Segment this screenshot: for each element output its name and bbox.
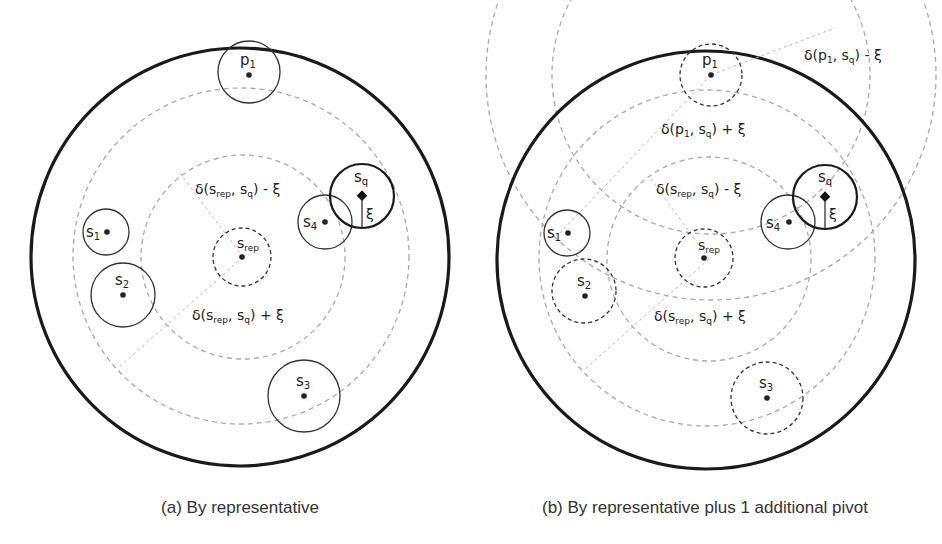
caption-panel-b: (b) By representative plus 1 additional … xyxy=(490,498,920,518)
s2-point xyxy=(120,292,126,298)
s1-point xyxy=(104,229,110,235)
label-s1: s1 xyxy=(547,224,561,243)
diagram-canvas: p1 s1 s2 s3 s4 sq ξ srep δ(srep, sq) - ξ… xyxy=(0,0,942,544)
label-s3: s3 xyxy=(759,374,773,393)
s3-point xyxy=(301,393,307,399)
srep-point xyxy=(701,255,707,261)
s2-point xyxy=(582,293,588,299)
label-s1: s1 xyxy=(86,223,100,242)
label-s2: s2 xyxy=(115,271,129,290)
label-xi: ξ xyxy=(829,206,837,222)
cluster-boundary xyxy=(497,51,915,469)
pivot-plus-ring xyxy=(486,0,936,300)
outer-bound-ring xyxy=(539,90,875,426)
label-p1: p1 xyxy=(702,51,718,70)
label-s2: s2 xyxy=(577,272,591,291)
label-sq: sq xyxy=(818,168,832,187)
outer-radius-line xyxy=(118,257,243,368)
s4-point xyxy=(786,219,792,225)
label-srep: srep xyxy=(237,235,259,253)
panel-b: p1 s1 s2 s3 s4 sq ξ srep δ(p1, sq) - ξ δ… xyxy=(486,0,936,469)
s1-point xyxy=(565,230,571,236)
label-inner-bound: δ(srep, sq) - ξ xyxy=(656,181,741,199)
label-s4: s4 xyxy=(303,213,317,232)
label-sq: sq xyxy=(354,168,368,187)
label-srep: srep xyxy=(698,237,720,255)
p1-point xyxy=(708,72,714,78)
label-s3: s3 xyxy=(296,372,310,391)
srep-point xyxy=(239,254,245,260)
label-xi: ξ xyxy=(366,206,374,222)
label-outer-bound: δ(srep, sq) + ξ xyxy=(654,308,746,326)
panel-a: p1 s1 s2 s3 s4 sq ξ srep δ(srep, sq) - ξ… xyxy=(31,41,449,466)
caption-panel-a: (a) By representative xyxy=(90,498,390,518)
s3-point xyxy=(764,395,770,401)
pivot-plus-radius-line xyxy=(557,75,711,236)
label-pivot-plus: δ(p1, sq) + ξ xyxy=(661,121,745,139)
s2-ball xyxy=(552,259,616,323)
label-outer-bound: δ(srep, sq) + ξ xyxy=(192,307,284,325)
label-pivot-minus: δ(p1, sq) - ξ xyxy=(804,47,882,65)
label-inner-bound: δ(srep, sq) - ξ xyxy=(195,181,280,199)
label-s4: s4 xyxy=(766,214,780,233)
s4-point xyxy=(322,219,328,225)
p1-point xyxy=(246,72,252,78)
label-p1: p1 xyxy=(240,51,256,70)
